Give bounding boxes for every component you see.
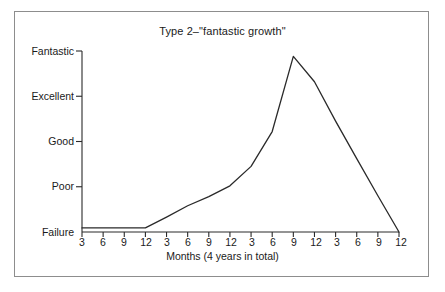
y-tick-marks: [76, 51, 82, 187]
axes: [82, 51, 399, 232]
data-series-line: [82, 56, 399, 232]
plot-area: [0, 0, 445, 292]
chart-figure: Type 2–"fantastic growth" Fantastic Exce…: [0, 0, 445, 292]
x-tick-marks: [82, 232, 399, 237]
